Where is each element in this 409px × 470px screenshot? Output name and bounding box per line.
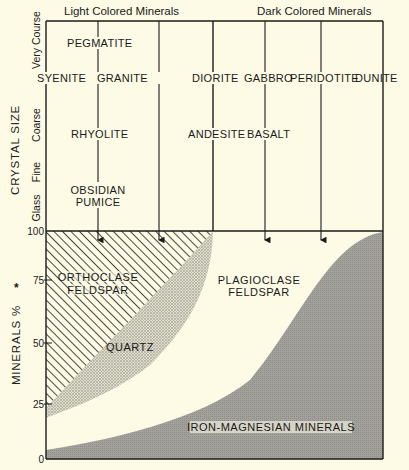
label-iron-magnesian: IRON-MAGNESIAN MINERALS xyxy=(187,421,355,433)
label-orthoclase-feldspar: FELDSPAR xyxy=(67,284,128,296)
label-orthoclase: ORTHOCLASE xyxy=(58,271,139,283)
rock-pumice: PUMICE xyxy=(76,196,121,208)
rock-gabbro: GABBRO xyxy=(244,72,293,84)
crystal-size-axis-title: CRYSTAL SIZE xyxy=(9,105,21,195)
tick-25: 25 xyxy=(33,399,45,410)
tick-100: 100 xyxy=(27,226,44,237)
header-dark-colored-minerals: Dark Colored Minerals xyxy=(257,5,372,17)
label-quartz: QUARTZ xyxy=(106,341,154,353)
rock-names: PEGMATITE SYENITE GRANITE DIORITE GABBRO… xyxy=(36,37,398,208)
rock-basalt: BASALT xyxy=(247,128,290,140)
tick-75: 75 xyxy=(33,275,45,286)
tick-50: 50 xyxy=(33,338,45,349)
rock-granite: GRANITE xyxy=(97,72,148,84)
minerals-axis-asterisk: * xyxy=(14,281,19,295)
rock-andesite: ANDESITE xyxy=(188,128,245,140)
rock-rhyolite: RHYOLITE xyxy=(71,128,128,140)
igneous-rock-classification-diagram: Light Colored Minerals Dark Colored Mine… xyxy=(0,0,409,470)
rock-obsidian: OBSIDIAN xyxy=(71,184,126,196)
label-plagioclase: PLAGIOCLASE xyxy=(218,274,301,286)
rock-pegmatite: PEGMATITE xyxy=(67,37,132,49)
rock-syenite: SYENITE xyxy=(37,72,86,84)
size-level-coarse: Coarse xyxy=(30,108,42,142)
label-plagioclase-feldspar: FELDSPAR xyxy=(228,286,289,298)
minerals-percent-axis-title: MINERALS % xyxy=(10,305,22,385)
size-level-glass: Glass xyxy=(30,195,42,222)
rock-diorite: DIORITE xyxy=(192,72,239,84)
tick-0: 0 xyxy=(38,454,44,465)
rock-dunite: DUNITE xyxy=(355,72,398,84)
size-level-very-coarse: Very Course xyxy=(30,11,42,69)
size-level-fine: Fine xyxy=(30,162,42,183)
rock-peridotite: PERIDOTITE xyxy=(290,72,359,84)
header-light-colored-minerals: Light Colored Minerals xyxy=(64,5,179,17)
